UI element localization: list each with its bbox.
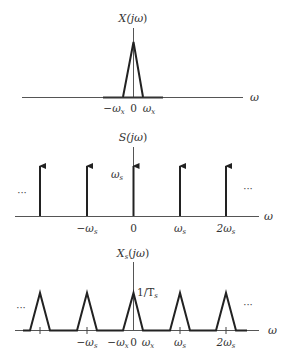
xs-tick-minus-ws: −ωs xyxy=(77,336,98,350)
xs-tick-wx: ωx xyxy=(142,336,155,350)
xs-peak-label: 1/Ts xyxy=(137,286,158,300)
sampling-spectra-diagram: X(jω) ω −ωx 0 ωx S(jω) ωs ··· ··· ω −ωs … xyxy=(0,0,289,363)
xs-axis-omega-label: ω xyxy=(268,324,277,337)
s-tick-2ws: 2ωs xyxy=(216,222,236,236)
panel-x-spectrum: X(jω) ω −ωx 0 ωx xyxy=(22,12,259,116)
xs-tick-zero: 0 xyxy=(130,336,137,348)
s-tick-ws: ωs xyxy=(174,222,187,236)
s-impulse-height-label: ωs xyxy=(111,168,124,182)
xs-right-ellipsis: ··· xyxy=(243,299,253,310)
s-tick-minus-ws: −ωs xyxy=(77,222,98,236)
xs-tick-minus-wx: −ωx xyxy=(107,336,128,350)
s-spectrum-title: S(jω) xyxy=(119,131,148,144)
x-spectrum-title: X(jω) xyxy=(118,12,148,25)
s-right-ellipsis: ··· xyxy=(243,183,253,194)
xs-spectrum-title: Xs(jω) xyxy=(116,247,149,261)
xs-tick-2ws: 2ωs xyxy=(216,336,236,350)
s-left-ellipsis: ··· xyxy=(17,187,27,198)
s-axis-omega-label: ω xyxy=(264,210,273,223)
panel-s-spectrum: S(jω) ωs ··· ··· ω −ωs 0 ωs 2ωs xyxy=(15,131,273,236)
s-tick-zero: 0 xyxy=(130,222,137,234)
xs-tick-ws: ωs xyxy=(174,336,187,350)
xs-periodic-triangles xyxy=(23,293,247,331)
x-axis-omega-label: ω xyxy=(250,91,259,104)
xs-left-ellipsis: ··· xyxy=(16,302,26,313)
x-tick-zero: 0 xyxy=(130,102,137,114)
x-tick-neg-omega-x: −ωx xyxy=(103,102,124,116)
x-tick-pos-omega-x: ωx xyxy=(143,102,156,116)
impulse-train xyxy=(40,166,226,216)
panel-xs-spectrum: Xs(jω) 1/Ts ··· ··· ω −ωs −ωx 0 ωx ωs 2ω… xyxy=(15,247,277,350)
